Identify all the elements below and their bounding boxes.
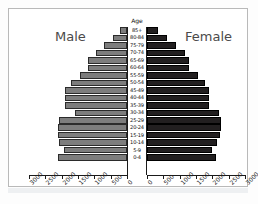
male-half — [29, 94, 127, 101]
female-bar — [147, 65, 189, 72]
male-half — [29, 72, 127, 79]
female-half — [147, 147, 245, 154]
age-label: 45-49 — [128, 87, 146, 94]
age-label: 15-19 — [128, 132, 146, 139]
female-half — [147, 102, 245, 109]
female-bar — [147, 72, 198, 79]
male-bar — [88, 57, 127, 64]
female-bar — [147, 139, 217, 146]
age-label: 70-74 — [128, 49, 146, 56]
male-half — [29, 42, 127, 49]
female-bar — [147, 102, 209, 109]
male-bar — [104, 42, 127, 49]
chart-frame: Male Female Age 85+80-8475-7970-7465-696… — [8, 8, 248, 187]
male-bar — [65, 95, 127, 102]
female-bar — [147, 50, 185, 57]
axis-tick-label: 0 — [146, 178, 154, 186]
male-half — [29, 117, 127, 124]
bottom-band — [8, 188, 248, 193]
male-bar — [113, 35, 127, 42]
axis-tick-label: 0 — [126, 178, 134, 186]
male-bar — [59, 139, 127, 146]
age-label: 85+ — [128, 27, 146, 34]
male-half — [29, 57, 127, 64]
male-bar — [59, 117, 127, 124]
male-half — [29, 102, 127, 109]
age-label: 60-64 — [128, 64, 146, 71]
female-half — [147, 49, 245, 56]
male-bar — [71, 80, 127, 87]
male-half — [29, 139, 127, 146]
male-half — [29, 34, 127, 41]
male-bar — [58, 124, 127, 131]
female-half — [147, 72, 245, 79]
male-bar — [80, 72, 127, 79]
male-half — [29, 49, 127, 56]
male-half — [29, 124, 127, 131]
female-half — [147, 117, 245, 124]
male-bar — [96, 50, 127, 57]
axis-tick-label: 3000 — [244, 170, 258, 186]
female-half — [147, 57, 245, 64]
male-bar — [58, 154, 127, 161]
female-bar — [147, 117, 221, 124]
female-half — [147, 94, 245, 101]
male-half — [29, 79, 127, 86]
age-label: 0-4 — [128, 154, 146, 161]
age-label-column: 85+80-8475-7970-7465-6960-6455-5950-5445… — [127, 27, 147, 175]
male-half — [29, 154, 127, 161]
female-half — [147, 27, 245, 34]
female-half — [147, 79, 245, 86]
female-bar — [147, 110, 219, 117]
age-label: 20-24 — [128, 124, 146, 131]
male-half — [29, 132, 127, 139]
male-half — [29, 27, 127, 34]
age-label: 80-84 — [128, 34, 146, 41]
male-half — [29, 87, 127, 94]
female-bar — [147, 42, 176, 49]
male-half — [29, 109, 127, 116]
age-label: 5-9 — [128, 147, 146, 154]
female-half — [147, 42, 245, 49]
age-label: 30-34 — [128, 109, 146, 116]
female-bar — [147, 124, 221, 131]
female-half — [147, 34, 245, 41]
age-label: 55-59 — [128, 72, 146, 79]
female-half — [147, 124, 245, 131]
male-half — [29, 147, 127, 154]
female-bar — [147, 80, 205, 87]
male-bar — [58, 132, 127, 139]
female-half — [147, 64, 245, 71]
female-half — [147, 139, 245, 146]
pyramid-plot: Age 85+80-8475-7970-7465-6960-6455-5950-… — [29, 27, 245, 175]
age-label: 75-79 — [128, 42, 146, 49]
chart-root: Male Female Age 85+80-8475-7970-7465-696… — [0, 0, 258, 204]
age-axis-title: Age — [127, 17, 147, 24]
male-bar — [65, 102, 127, 109]
male-bar — [120, 27, 127, 34]
age-label: 40-44 — [128, 94, 146, 101]
female-bar — [147, 35, 167, 42]
male-bar — [75, 110, 127, 117]
female-bar — [147, 147, 212, 154]
male-half — [29, 64, 127, 71]
female-half — [147, 132, 245, 139]
age-label: 35-39 — [128, 102, 146, 109]
female-half — [147, 87, 245, 94]
female-half — [147, 154, 245, 161]
male-bar — [64, 147, 127, 154]
male-bar — [88, 65, 127, 72]
age-label: 50-54 — [128, 79, 146, 86]
female-bar — [147, 132, 220, 139]
female-bar — [147, 95, 209, 102]
age-label: 25-29 — [128, 117, 146, 124]
female-bar — [147, 27, 158, 34]
female-bar — [147, 154, 216, 161]
female-half — [147, 109, 245, 116]
age-label: 65-69 — [128, 57, 146, 64]
female-bar — [147, 57, 189, 64]
age-label: 10-14 — [128, 139, 146, 146]
female-bar — [147, 87, 209, 94]
male-bar — [65, 87, 127, 94]
